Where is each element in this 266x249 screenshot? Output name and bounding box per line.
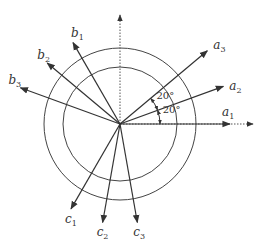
vector-label-b2: b2 — [37, 48, 50, 64]
vector-label-a2: a2 — [229, 79, 241, 95]
vector-c3 — [120, 124, 137, 222]
phasor-diagram: a1a2a3b1b2b3c1c2c3 20°20° — [0, 0, 266, 249]
angle-arc-1 — [158, 110, 160, 124]
vector-label-b1: b1 — [71, 26, 84, 42]
vector-label-a1: a1 — [222, 105, 234, 121]
vector-b2 — [47, 63, 120, 124]
vector-label-c3: c3 — [133, 225, 145, 241]
vector-b3 — [20, 88, 120, 124]
vector-label-c1: c1 — [65, 212, 77, 228]
vectors: a1a2a3b1b2b3c1c2c3 — [8, 26, 241, 242]
vector-label-a3: a3 — [213, 38, 225, 54]
angle-label-0: 20° — [156, 90, 174, 101]
angle-annotations: 20°20° — [151, 90, 181, 124]
vector-label-c2: c2 — [97, 225, 109, 241]
angle-label-1: 20° — [163, 104, 181, 115]
vector-label-b3: b3 — [8, 73, 21, 89]
